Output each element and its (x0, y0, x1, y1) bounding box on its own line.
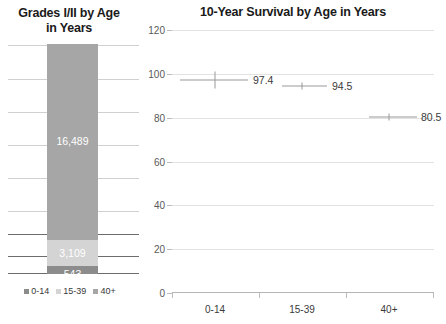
x-tick-mark (259, 293, 260, 298)
right-gridline: 100 (172, 74, 434, 75)
left-chart-title: Grades I/II by Age in Years (2, 6, 136, 36)
left-chart-title-line2: in Years (46, 21, 92, 35)
right-gridline: 40 (172, 205, 434, 206)
y-tick-label: 120 (148, 25, 165, 36)
legend-swatch-icon (56, 289, 61, 294)
y-tick-mark (167, 162, 172, 163)
left-plot-area: 16,489 3,109 543 (0, 44, 140, 274)
legend-swatch-icon (24, 289, 29, 294)
y-tick-mark (167, 118, 172, 119)
y-tick-label: 60 (154, 156, 165, 167)
left-chart-title-line1: Grades I/II by Age (18, 6, 120, 20)
y-tick-label: 80 (154, 112, 165, 123)
y-tick-label: 40 (154, 200, 165, 211)
data-marker-40plus[interactable] (389, 113, 390, 120)
legend-item-40plus[interactable]: 40+ (93, 286, 115, 296)
y-tick-label: 20 (154, 244, 165, 255)
x-tick-mark (172, 293, 173, 298)
y-tick-mark (167, 74, 172, 75)
right-x-axis (172, 292, 434, 293)
bar-segment-label-40plus: 16,489 (47, 135, 98, 147)
left-chart-legend: 0-14 15-39 40+ (0, 286, 140, 296)
legend-label: 15-39 (63, 286, 86, 296)
x-axis-label-15-39: 15-39 (289, 304, 315, 315)
x-axis-label-40plus: 40+ (381, 304, 398, 315)
right-gridline: 60 (172, 162, 434, 163)
legend-item-15-39[interactable]: 15-39 (56, 286, 86, 296)
right-chart-title: 10-Year Survival by Age in Years (140, 5, 446, 19)
data-marker-0-14[interactable] (215, 71, 216, 88)
right-gridline: 80 (172, 118, 434, 119)
x-tick-mark (346, 293, 347, 298)
legend-swatch-icon (93, 289, 98, 294)
x-axis-label-0-14: 0-14 (205, 304, 225, 315)
legend-label: 40+ (100, 286, 115, 296)
legend-item-0-14[interactable]: 0-14 (24, 286, 49, 296)
error-bar-15-39 (282, 85, 327, 86)
data-marker-15-39[interactable] (302, 82, 303, 89)
y-tick-mark (167, 30, 172, 31)
y-tick-mark (167, 205, 172, 206)
x-tick-mark (433, 293, 434, 298)
bar-segment-label-15-39: 3,109 (47, 247, 98, 259)
y-tick-label: 100 (148, 68, 165, 79)
error-bar-40plus (369, 116, 417, 117)
grades-by-age-chart: Grades I/II by Age in Years 16,489 3,109… (0, 0, 140, 324)
data-label-40plus: 80.5 (421, 111, 441, 123)
right-gridline: 20 (172, 249, 434, 250)
data-label-15-39: 94.5 (332, 80, 352, 92)
right-gridline: 120 (172, 30, 434, 31)
right-plot-area: 120 100 80 60 40 20 0 0-14 (172, 30, 434, 293)
data-label-0-14: 97.4 (253, 74, 273, 86)
stacked-bar[interactable]: 16,489 3,109 543 (47, 44, 98, 274)
y-tick-mark (167, 249, 172, 250)
legend-label: 0-14 (31, 286, 49, 296)
y-tick-label: 0 (159, 288, 165, 299)
ten-year-survival-chart: 10-Year Survival by Age in Years 120 100… (140, 0, 446, 324)
bar-segment-label-0-14: 543 (47, 268, 98, 280)
